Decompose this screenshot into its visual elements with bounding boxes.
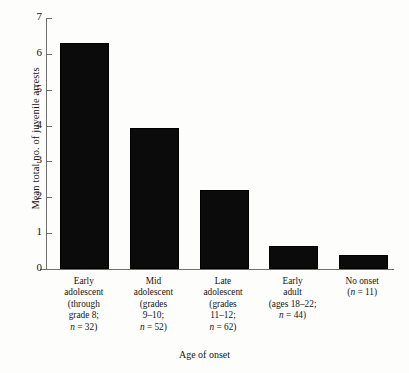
y-tick-2: 2 xyxy=(6,197,52,198)
category-label-line: Early xyxy=(254,276,332,287)
category-label-line: 9–10; xyxy=(114,310,192,321)
y-tick-label: 4 xyxy=(18,118,42,130)
y-axis-title: Mean total no. of juvenile arrests xyxy=(30,44,41,234)
category-label-line: (grades xyxy=(184,299,262,310)
x-axis-line xyxy=(40,269,394,270)
category-label-line: (n = 11) xyxy=(323,287,401,298)
category-label-1: Earlyadolescent(throughgrade 8;n = 32) xyxy=(45,276,123,333)
sample-size-symbol: n xyxy=(70,322,75,332)
category-label-line: adolescent xyxy=(45,287,123,298)
category-label-line: (grades xyxy=(114,299,192,310)
sample-size-symbol: n xyxy=(279,310,284,320)
x-axis-title: Age of onset xyxy=(0,349,409,360)
y-tick-label: 3 xyxy=(18,153,42,165)
category-label-line: (through xyxy=(45,299,123,310)
category-label-line: Early xyxy=(45,276,123,287)
tick-mark-icon xyxy=(46,126,52,127)
category-label-line: (ages 18–22; xyxy=(254,299,332,310)
bar-4 xyxy=(269,246,318,269)
category-label-line: n = 44) xyxy=(254,310,332,321)
category-label-line: No onset xyxy=(323,276,401,287)
sample-size-symbol: n xyxy=(140,322,145,332)
sample-size-symbol: n xyxy=(210,322,215,332)
y-tick-0: 0 xyxy=(6,269,52,270)
tick-mark-icon xyxy=(46,18,52,19)
category-label-line: adult xyxy=(254,287,332,298)
y-tick-4: 4 xyxy=(6,126,52,127)
category-label-line: n = 32) xyxy=(45,322,123,333)
category-label-line: Mid xyxy=(114,276,192,287)
tick-mark-icon xyxy=(46,161,52,162)
tick-mark-icon xyxy=(46,269,52,270)
tick-mark-icon xyxy=(46,90,52,91)
plot-area: 01234567 xyxy=(46,18,394,270)
y-tick-label: 0 xyxy=(18,261,42,273)
bar-5 xyxy=(339,255,388,269)
bar-chart-figure: Mean total no. of juvenile arrests 01234… xyxy=(0,0,409,373)
y-tick-label: 7 xyxy=(18,10,42,22)
y-tick-label: 6 xyxy=(18,46,42,58)
category-label-line: adolescent xyxy=(184,287,262,298)
tick-mark-icon xyxy=(46,233,52,234)
sample-size-symbol: n xyxy=(350,287,355,297)
y-tick-7: 7 xyxy=(6,18,52,19)
tick-mark-icon xyxy=(46,197,52,198)
bar-1 xyxy=(60,43,109,269)
y-tick-label: 1 xyxy=(18,225,42,237)
category-label-2: Midadolescent(grades9–10;n = 52) xyxy=(114,276,192,333)
y-tick-3: 3 xyxy=(6,161,52,162)
category-label-5: No onset(n = 11) xyxy=(323,276,401,299)
y-tick-5: 5 xyxy=(6,90,52,91)
bar-2 xyxy=(130,128,179,269)
tick-mark-icon xyxy=(46,54,52,55)
category-label-line: 11–12; xyxy=(184,310,262,321)
category-label-line: n = 62) xyxy=(184,322,262,333)
category-label-line: adolescent xyxy=(114,287,192,298)
y-tick-6: 6 xyxy=(6,54,52,55)
category-label-4: Earlyadult(ages 18–22;n = 44) xyxy=(254,276,332,322)
category-label-line: Late xyxy=(184,276,262,287)
category-label-3: Lateadolescent(grades11–12;n = 62) xyxy=(184,276,262,333)
y-tick-1: 1 xyxy=(6,233,52,234)
y-tick-label: 5 xyxy=(18,82,42,94)
bar-3 xyxy=(200,190,249,269)
category-label-line: n = 52) xyxy=(114,322,192,333)
y-tick-label: 2 xyxy=(18,189,42,201)
category-label-line: grade 8; xyxy=(45,310,123,321)
